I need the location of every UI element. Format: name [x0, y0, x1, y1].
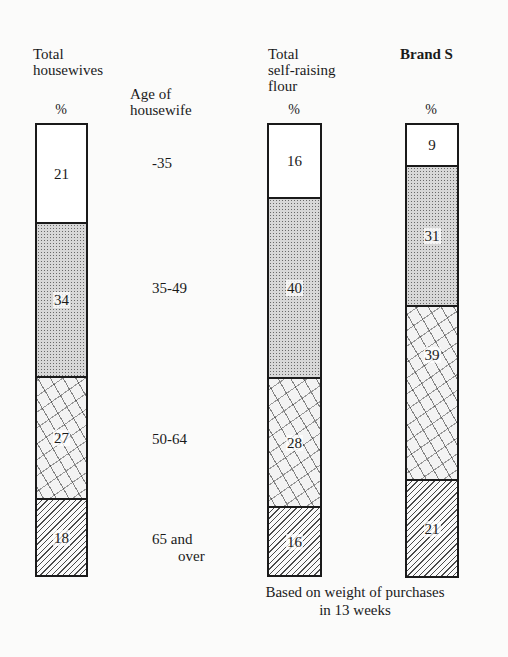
segment-under-35: 16: [269, 125, 320, 197]
age-label-35-49: 35-49: [152, 280, 187, 297]
header-total-housewives: Total housewives: [33, 46, 103, 78]
age-label-under-35: -35: [152, 155, 172, 172]
percent-label: %: [51, 102, 71, 118]
segment-35-49: 31: [407, 165, 457, 305]
header-brand-s: Brand S: [400, 46, 453, 62]
footnote-line: in 13 weeks: [225, 601, 485, 619]
segment-value: 40: [286, 280, 303, 296]
age-label-65-and-over: 65 and over: [152, 531, 205, 565]
segment-under-35: 21: [37, 125, 86, 222]
segment-35-49: 34: [37, 222, 86, 376]
percent-label: %: [284, 102, 304, 118]
segment-35-49: 40: [269, 197, 320, 377]
segment-value: 39: [424, 347, 441, 363]
footnote: Based on weight of purchases in 13 weeks: [225, 583, 485, 619]
legend-title: Age of housewife: [130, 86, 192, 118]
legend-title-line: Age of: [130, 86, 192, 102]
segment-value: 31: [424, 228, 441, 244]
segment-value: 28: [286, 435, 303, 451]
footnote-line: Based on weight of purchases: [225, 583, 485, 601]
segment-value: 21: [53, 166, 70, 182]
segment-value: 34: [53, 292, 70, 308]
bar-total-self-raising-flour: 16 40 28 16: [267, 123, 322, 577]
segment-65-and-over: 21: [407, 479, 457, 576]
segment-value: 9: [427, 137, 437, 153]
segment-50-64: 39: [407, 305, 457, 479]
segment-50-64: 28: [269, 377, 320, 506]
header-total-self-raising-flour: Total self-raising flour: [268, 46, 335, 94]
segment-65-and-over: 18: [37, 498, 86, 575]
bar-total-housewives: 21 34 27 18: [35, 123, 88, 577]
legend-title-line: housewife: [130, 102, 192, 118]
age-label-line: over: [152, 548, 205, 565]
header-line: self-raising: [268, 62, 335, 78]
bar-brand-s: 9 31 39 21: [405, 123, 459, 578]
header-line: flour: [268, 78, 335, 94]
segment-value: 16: [286, 153, 303, 169]
segment-50-64: 27: [37, 376, 86, 498]
header-line: housewives: [33, 62, 103, 78]
segment-65-and-over: 16: [269, 506, 320, 575]
segment-value: 16: [286, 534, 303, 550]
segment-under-35: 9: [407, 125, 457, 165]
percent-label: %: [421, 102, 441, 118]
segment-value: 27: [53, 430, 70, 446]
age-label-50-64: 50-64: [152, 431, 187, 448]
age-label-line: 65 and: [152, 531, 205, 548]
header-line: Total: [33, 46, 103, 62]
segment-value: 18: [53, 530, 70, 546]
segment-value: 21: [424, 521, 441, 537]
header-line: Total: [268, 46, 335, 62]
